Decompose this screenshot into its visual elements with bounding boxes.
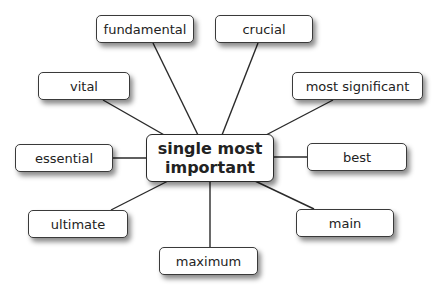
node-vital: vital	[38, 72, 130, 100]
node-best: best	[307, 143, 407, 171]
node-label: fundamental	[104, 22, 187, 37]
node-label: most significant	[306, 79, 410, 94]
node-main: main	[296, 209, 394, 237]
node-label: essential	[35, 151, 93, 166]
connector-fundamental	[153, 43, 198, 135]
node-maximum: maximum	[159, 247, 258, 275]
connector-ultimate	[111, 181, 168, 210]
node-essential: essential	[15, 144, 113, 172]
connector-main	[255, 181, 314, 209]
node-most-significant: most significant	[292, 72, 423, 100]
node-label: main	[329, 216, 361, 231]
node-label: ultimate	[51, 217, 105, 232]
node-crucial: crucial	[215, 15, 313, 43]
connector-vital	[103, 100, 166, 136]
connector-most-significant	[266, 100, 333, 135]
node-ultimate: ultimate	[28, 210, 128, 238]
node-label: crucial	[242, 22, 285, 37]
node-label: maximum	[176, 254, 242, 269]
center-node-label: single most important	[155, 139, 265, 177]
node-fundamental: fundamental	[96, 15, 194, 43]
connector-crucial	[222, 43, 258, 135]
node-label: best	[343, 150, 371, 165]
center-node: single most important	[146, 134, 274, 182]
node-label: vital	[70, 79, 98, 94]
